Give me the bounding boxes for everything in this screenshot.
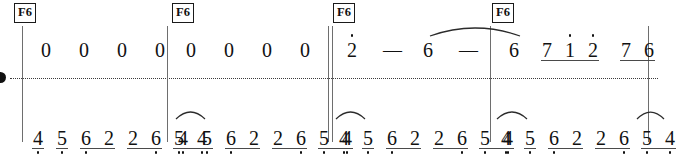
slur-lower-m3-m4 [497,106,527,123]
slur-lower-m4-end [637,106,664,123]
tie-upper-m3 [430,21,520,40]
slur-lower-m1-m2 [176,106,205,123]
octave-down-dot [669,151,672,154]
lower-note-m4-8[interactable]: 4 [663,128,677,148]
slur-lower-m2-m3 [336,106,365,123]
